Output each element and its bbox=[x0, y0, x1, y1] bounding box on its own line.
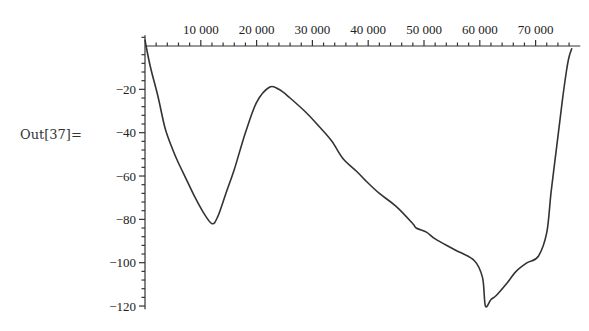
axes bbox=[139, 35, 580, 309]
x-tick-label: 50 000 bbox=[406, 22, 442, 37]
y-tick-label: −100 bbox=[109, 255, 136, 270]
y-tick-label: −80 bbox=[116, 212, 136, 227]
x-tick-label: 20 000 bbox=[239, 22, 275, 37]
x-tick-label: 10 000 bbox=[183, 22, 219, 37]
data-curve bbox=[145, 40, 572, 307]
y-tick-label: −40 bbox=[116, 125, 136, 140]
tick-labels: 10 00020 00030 00040 00050 00060 00070 0… bbox=[109, 22, 553, 314]
y-tick-label: −20 bbox=[116, 82, 136, 97]
x-tick-label: 60 000 bbox=[462, 22, 498, 37]
y-tick-label: −60 bbox=[116, 169, 136, 184]
x-tick-label: 40 000 bbox=[350, 22, 386, 37]
x-tick-label: 70 000 bbox=[518, 22, 554, 37]
y-tick-label: −120 bbox=[109, 299, 136, 314]
line-chart: 10 00020 00030 00040 00050 00060 00070 0… bbox=[0, 0, 589, 331]
x-tick-label: 30 000 bbox=[295, 22, 331, 37]
